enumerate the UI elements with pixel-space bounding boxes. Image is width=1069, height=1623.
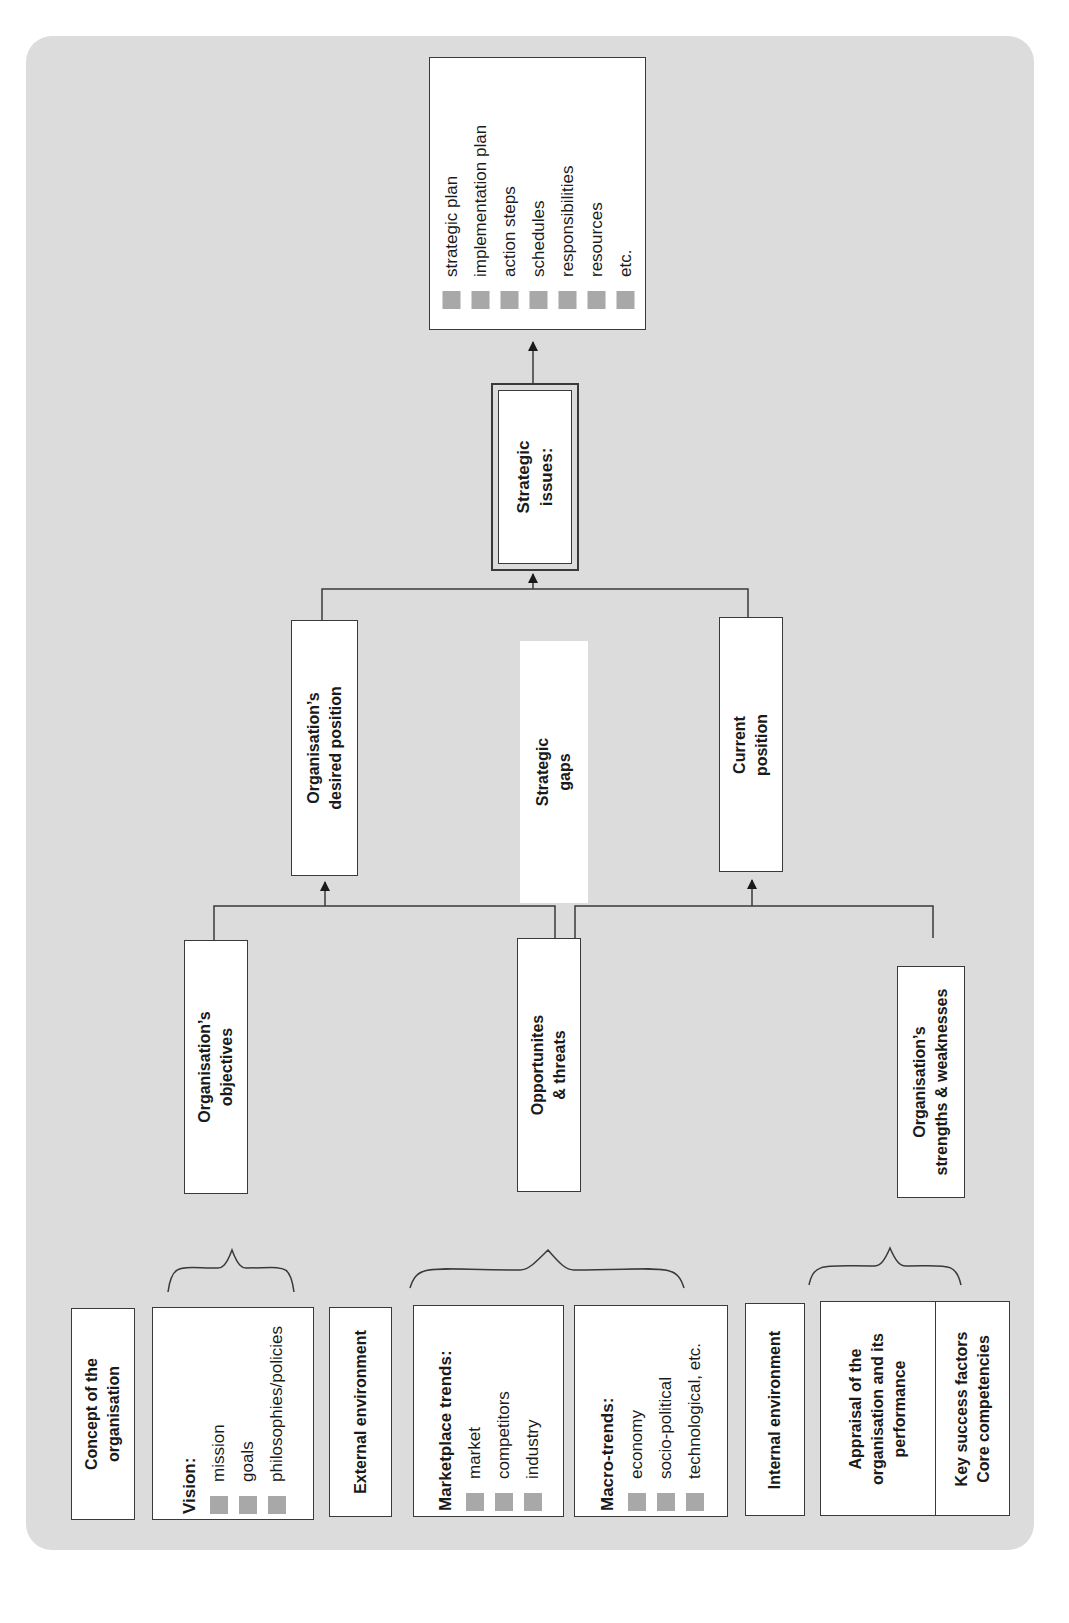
objectives-line1: Organisation’s: [194, 1011, 216, 1122]
concept-line1: Concept of the: [81, 1358, 103, 1470]
current-position-line2: position: [751, 713, 773, 775]
desired-position-line2: desired position: [325, 686, 347, 810]
marketplace-item: market: [464, 1427, 484, 1479]
strengths-weaknesses-box: Organisation’s strengths & weaknesses: [897, 966, 965, 1198]
objectives-box: Organisation’s objectives: [184, 940, 248, 1194]
strategic-planning-diagram: strategic plan implementation plan actio…: [0, 0, 1069, 1623]
bullet-icon: [210, 1496, 228, 1514]
strengths-line1: Organisation’s: [909, 989, 931, 1176]
outcome-item: strategic plan: [441, 175, 461, 276]
current-position-box: Current position: [719, 617, 783, 872]
strategic-gaps-line1: Strategic: [532, 738, 554, 806]
bullet-icon: [558, 291, 576, 309]
strategic-gaps-line2: gaps: [554, 738, 576, 806]
outcome-item: etc.: [615, 249, 635, 276]
opportunities-line2: & threats: [549, 1015, 571, 1115]
marketplace-trends-box: Marketplace trends: market competitors i…: [413, 1305, 564, 1517]
vision-item: goals: [238, 1441, 258, 1482]
outcome-item: responsibilities: [557, 165, 577, 277]
outcome-item: action steps: [499, 186, 519, 277]
marketplace-item: industry: [522, 1419, 542, 1479]
outcome-item: implementation plan: [470, 124, 490, 276]
bullet-icon: [529, 291, 547, 309]
bullet-icon: [616, 291, 634, 309]
concept-box: Concept of the organisation: [71, 1308, 135, 1520]
opportunities-line1: Opportunites: [527, 1015, 549, 1115]
appraisal-line2: organisation and its: [867, 1332, 889, 1484]
ksf-line2: Core competencies: [973, 1331, 995, 1486]
vision-item: philosophies/policies: [267, 1326, 287, 1482]
internal-environment-box: Internal environment: [745, 1303, 805, 1516]
macro-trends-box: Macro-trends: economy socio-political te…: [574, 1305, 728, 1517]
appraisal-section: Appraisal of the organisation and its pe…: [821, 1302, 936, 1515]
vision-item: mission: [209, 1424, 229, 1482]
vision-box: Vision: mission goals philosophies/polic…: [152, 1307, 314, 1520]
bullet-icon: [239, 1496, 257, 1514]
external-environment-box: External environment: [329, 1307, 392, 1517]
bullet-icon: [268, 1496, 286, 1514]
brace-internal: [809, 1248, 961, 1285]
bullet-icon: [500, 291, 518, 309]
bullet-icon: [465, 1493, 483, 1511]
bullet-icon: [442, 291, 460, 309]
concept-line2: organisation: [103, 1358, 125, 1470]
bullet-icon: [686, 1493, 704, 1511]
bullet-icon: [494, 1493, 512, 1511]
appraisal-line3: performance: [889, 1332, 911, 1484]
external-environment-label: External environment: [350, 1330, 372, 1494]
ksf-section: Key success factors Core competencies: [936, 1302, 1009, 1515]
strategic-issues-box: Strategic issues:: [491, 383, 579, 571]
internal-environment-label: Internal environment: [764, 1330, 786, 1488]
opportunities-threats-box: Opportunites & threats: [517, 938, 581, 1192]
desired-position-line1: Organisation’s: [303, 686, 325, 810]
bullet-icon: [471, 291, 489, 309]
bullet-icon: [657, 1493, 675, 1511]
macro-item: technological, etc.: [685, 1343, 705, 1479]
macro-heading: Macro-trends:: [593, 1311, 622, 1511]
objectives-line2: objectives: [216, 1011, 238, 1122]
bullet-icon: [628, 1493, 646, 1511]
strategic-issues-line2: issues:: [535, 441, 558, 514]
marketplace-heading: Marketplace trends:: [431, 1311, 460, 1511]
ksf-line1: Key success factors: [951, 1331, 973, 1486]
strategic-gaps-label: Strategic gaps: [520, 641, 588, 903]
bullet-icon: [587, 291, 605, 309]
strengths-line2: strengths & weaknesses: [931, 989, 953, 1176]
outcome-item: schedules: [528, 200, 548, 277]
strategic-issues-line1: Strategic: [512, 441, 535, 514]
outcome-box: strategic plan implementation plan actio…: [429, 57, 646, 330]
appraisal-ksf-box: Appraisal of the organisation and its pe…: [820, 1301, 1010, 1516]
macro-item: economy: [627, 1410, 647, 1479]
outcome-item: resources: [586, 202, 606, 277]
macro-item: socio-political: [656, 1377, 676, 1479]
desired-position-box: Organisation’s desired position: [291, 620, 358, 876]
current-position-line1: Current: [729, 713, 751, 775]
appraisal-line1: Appraisal of the: [845, 1332, 867, 1484]
vision-heading: Vision:: [175, 1314, 204, 1514]
marketplace-item: competitors: [493, 1391, 513, 1479]
bullet-icon: [523, 1493, 541, 1511]
brace-external: [410, 1250, 684, 1288]
brace-vision: [168, 1250, 294, 1292]
